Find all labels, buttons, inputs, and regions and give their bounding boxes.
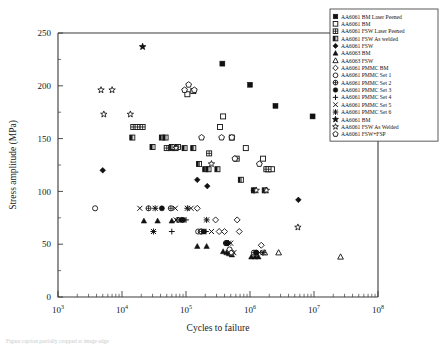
data-point: [204, 183, 210, 189]
data-point: [209, 229, 214, 234]
legend-item-7[interactable]: AA6061 PMMC BM: [333, 65, 389, 71]
data-point: [186, 82, 192, 87]
data-point: [213, 217, 219, 223]
data-point: [109, 87, 115, 93]
legend-item-9[interactable]: AA6061 PMMC Set 2: [333, 80, 391, 86]
data-point: [261, 156, 266, 161]
data-point: [150, 145, 155, 150]
data-point: [338, 254, 344, 259]
legend-label: AA6061 PMMC Set 4: [341, 94, 391, 100]
fatigue-scatter-chart: 050100150200250103104105106107108Cycles …: [0, 0, 440, 350]
data-point: [310, 114, 315, 119]
data-point: [258, 242, 264, 248]
legend-label: AA6061 PMMC Set 3: [341, 87, 391, 93]
x-tick-label: 104: [116, 304, 128, 315]
legend-label: AA6061 PMMC BM: [341, 65, 389, 71]
axis-titles: Cycles to failureStress amplitude (MPa): [8, 120, 249, 333]
data-point: [137, 206, 142, 211]
legend-label: AA6061 FSW+FSP: [341, 131, 386, 137]
legend-item-8[interactable]: AA6061 PMMC Set 1: [333, 72, 391, 78]
figure-root: 050100150200250103104105106107108Cycles …: [0, 0, 440, 350]
legend-marker-filled-square-icon: [333, 14, 338, 19]
data-point: [150, 229, 156, 235]
x-tick-label: 107: [308, 304, 320, 315]
y-tick-label: 250: [38, 28, 52, 38]
data-point: [225, 240, 231, 246]
data-point: [141, 218, 147, 223]
legend-item-3[interactable]: AA6061 FSW As welded: [333, 36, 398, 42]
data-point: [238, 177, 243, 182]
data-point: [276, 250, 282, 255]
legend-label: AA6063 FSW: [341, 58, 374, 64]
x-axis-ticks: 103104105106107108: [52, 291, 384, 315]
legend-label: AA6061 BM: [341, 117, 370, 123]
data-point: [184, 205, 190, 211]
legend-label: AA6061 PMMC Set 2: [341, 80, 391, 86]
data-point: [222, 229, 228, 235]
legend-label: AA6061 BM Laser Peened: [341, 14, 402, 20]
data-point: [169, 229, 175, 235]
legend-marker-open-circle-icon: [333, 73, 338, 78]
data-point: [152, 205, 158, 211]
legend-item-2[interactable]: AA6061 FSW Laser Peened: [333, 28, 404, 34]
data-point: [207, 151, 212, 156]
series-14: [139, 43, 145, 49]
y-tick-label: 150: [38, 134, 52, 144]
legend-item-16[interactable]: AA6061 FSW+FSP: [333, 131, 386, 137]
y-axis-title: Stress amplitude (MPa): [8, 120, 19, 210]
data-point: [155, 218, 161, 223]
data-point: [243, 146, 248, 151]
data-point: [296, 197, 302, 203]
legend-item-13[interactable]: AA6061 PMMC Set 6: [333, 109, 392, 115]
data-point: [234, 217, 240, 223]
legend-label: AA6061 PMMC Set 1: [341, 72, 391, 78]
data-point: [159, 206, 164, 211]
x-axis-title: Cycles to failure: [187, 323, 250, 333]
x-tick-label: 105: [180, 304, 192, 315]
series-1: [185, 89, 275, 172]
y-tick-label: 200: [38, 81, 52, 91]
legend-marker-filled-circle-icon: [333, 88, 338, 93]
legend-item-12[interactable]: AA6061 PMMC Set 5: [333, 102, 391, 108]
data-point: [191, 146, 196, 151]
data-point: [191, 87, 197, 92]
series-5: [141, 218, 261, 259]
data-point: [182, 87, 188, 92]
y-tick-label: 0: [47, 292, 52, 302]
data-point: [199, 135, 205, 140]
data-point: [195, 243, 201, 248]
data-point: [168, 206, 173, 211]
y-tick-label: 100: [38, 187, 52, 197]
data-point: [206, 167, 211, 172]
legend-item-10[interactable]: AA6061 PMMC Set 3: [333, 87, 391, 93]
series-0: [220, 61, 315, 119]
legend-label: AA6063 BM: [341, 50, 370, 56]
legend-label: AA6061 FSW As welded: [341, 36, 398, 42]
data-point: [273, 103, 278, 108]
data-point: [101, 111, 107, 117]
data-point: [93, 206, 98, 211]
legend-label: AA6061 BM: [341, 21, 370, 27]
legend-marker-half-filled-square-icon: [333, 36, 338, 41]
data-point: [182, 146, 187, 151]
data-point: [219, 135, 225, 140]
data-points: [93, 43, 344, 259]
legend-marker-open-square-icon: [333, 22, 338, 27]
data-point: [135, 124, 140, 129]
legend-marker-asterisk-icon: [333, 109, 339, 115]
data-point: [197, 161, 202, 166]
data-point: [140, 124, 145, 129]
legend-item-15[interactable]: AA6061 FSW As Welded: [333, 124, 399, 130]
data-point: [260, 250, 266, 256]
data-point: [100, 167, 106, 173]
legend-marker-crosshatch-circle-icon: [333, 80, 338, 85]
x-tick-label: 106: [244, 304, 256, 315]
series-4: [100, 167, 301, 202]
data-point: [221, 114, 226, 119]
legend-item-0[interactable]: AA6061 BM Laser Peened: [333, 14, 402, 20]
legend-label: AA6061 PMMC Set 6: [341, 109, 391, 115]
legend: AA6061 BM Laser PeenedAA6061 BMAA6061 FS…: [330, 9, 438, 141]
data-point: [215, 167, 220, 172]
legend-item-11[interactable]: AA6061 PMMC Set 4: [333, 94, 392, 100]
data-point: [194, 177, 200, 183]
